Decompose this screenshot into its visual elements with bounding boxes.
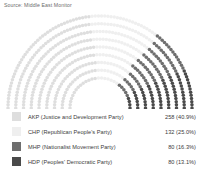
seat-dot bbox=[111, 47, 115, 51]
seat-dot bbox=[22, 100, 26, 104]
seat-dot bbox=[109, 15, 113, 19]
seat-dot bbox=[92, 46, 96, 50]
seat-dot bbox=[103, 14, 107, 17]
seat-dot bbox=[105, 53, 109, 57]
seat-dot bbox=[167, 100, 171, 104]
seat-dot bbox=[155, 84, 159, 88]
seat-dot bbox=[106, 15, 110, 19]
seat-dot bbox=[178, 78, 182, 82]
seat-dot bbox=[190, 103, 194, 107]
seat-dot bbox=[93, 22, 97, 26]
seat-dot bbox=[105, 30, 109, 34]
seat-dot bbox=[125, 94, 129, 98]
seat-dot bbox=[37, 103, 41, 107]
seat-dot bbox=[128, 103, 132, 107]
seat-dot bbox=[112, 15, 116, 19]
seat-dot bbox=[69, 19, 73, 23]
seat-dot bbox=[73, 42, 77, 46]
seat-dot bbox=[87, 62, 91, 66]
legend-swatch-hdp bbox=[12, 157, 21, 166]
seat-dot bbox=[76, 41, 80, 45]
seat-dot bbox=[97, 69, 101, 73]
seat-dot bbox=[106, 22, 110, 26]
seat-dot bbox=[106, 77, 110, 81]
seat-dot-group bbox=[6, 14, 194, 109]
seat-dot bbox=[47, 94, 51, 98]
parliament-seat-chart bbox=[0, 11, 200, 109]
seat-dot bbox=[10, 81, 14, 85]
seat-dot bbox=[16, 90, 20, 94]
legend-row-hdp[interactable]: HDP (Peoples' Democratic Party) 80 (13.1… bbox=[0, 154, 200, 169]
seat-dot bbox=[31, 94, 35, 98]
seat-dot bbox=[33, 84, 37, 88]
seat-dot bbox=[17, 84, 21, 88]
seat-dot bbox=[111, 39, 115, 43]
seat-dot bbox=[182, 100, 186, 104]
seat-dot bbox=[162, 81, 166, 85]
seat-dot bbox=[105, 38, 109, 42]
seat-dot bbox=[90, 69, 94, 73]
seat-dot bbox=[98, 53, 102, 57]
seat-dot bbox=[84, 15, 88, 19]
seat-dot bbox=[111, 55, 115, 59]
seat-dot bbox=[92, 30, 96, 34]
seat-dot bbox=[150, 94, 154, 98]
seat-dot bbox=[6, 100, 10, 104]
legend-value-mhp: 80 (16.3%) bbox=[168, 144, 196, 150]
seat-dot bbox=[172, 84, 176, 88]
seat-dot bbox=[23, 91, 27, 95]
seat-dot bbox=[45, 100, 49, 104]
seat-dot bbox=[116, 16, 120, 20]
seat-dot bbox=[181, 90, 185, 94]
legend-label-chp: CHP (Republican People's Party) bbox=[28, 129, 165, 135]
seat-dot bbox=[75, 17, 79, 21]
seat-dot bbox=[90, 61, 94, 65]
seat-dot bbox=[55, 94, 59, 98]
legend-value-hdp: 80 (13.1%) bbox=[168, 159, 196, 165]
seat-dot bbox=[15, 94, 19, 98]
seat-dot bbox=[16, 87, 20, 91]
seat-dot bbox=[171, 81, 175, 85]
seat-dot bbox=[101, 30, 105, 34]
seat-dot bbox=[157, 90, 161, 94]
legend-row-mhp[interactable]: MHP (Nationalist Movement Party) 80 (16.… bbox=[0, 139, 200, 154]
seat-dot bbox=[189, 90, 193, 94]
seat-dot bbox=[79, 56, 83, 60]
seat-dot bbox=[81, 64, 85, 68]
legend-row-akp[interactable]: AKP (Justice and Development Party) 258 … bbox=[0, 109, 200, 124]
seat-dot bbox=[83, 31, 87, 34]
seat-dot bbox=[174, 100, 178, 104]
seat-dot bbox=[76, 49, 80, 53]
seat-dot bbox=[66, 20, 70, 24]
seat-dot bbox=[116, 24, 120, 28]
seat-dot bbox=[46, 97, 50, 101]
seat-dot bbox=[97, 14, 101, 18]
seat-dot bbox=[72, 18, 76, 22]
seat-dot bbox=[32, 87, 36, 91]
seat-dot bbox=[72, 26, 76, 30]
seat-dot bbox=[120, 41, 124, 45]
seat-dot bbox=[98, 45, 102, 49]
legend-row-chp[interactable]: CHP (Republican People's Party) 132 (25.… bbox=[0, 124, 200, 139]
legend-swatch-akp bbox=[12, 112, 21, 121]
seat-dot bbox=[93, 69, 97, 73]
seat-dot bbox=[172, 87, 176, 91]
seat-dot bbox=[78, 17, 82, 21]
seat-dot bbox=[25, 84, 29, 88]
seat-dot bbox=[90, 77, 94, 81]
seat-dot bbox=[106, 69, 110, 73]
seat-dot bbox=[14, 103, 18, 107]
seat-dot bbox=[179, 81, 183, 85]
seat-dot bbox=[23, 94, 27, 98]
seat-dot bbox=[135, 100, 139, 104]
seat-dot bbox=[188, 84, 192, 88]
seat-dot bbox=[165, 91, 169, 95]
seat-dot bbox=[68, 103, 72, 107]
legend-swatch-chp bbox=[12, 127, 21, 136]
seat-dot bbox=[151, 100, 155, 104]
seat-dot bbox=[114, 47, 118, 51]
seat-dot bbox=[108, 54, 112, 58]
seat-dot bbox=[89, 38, 93, 42]
seat-dot bbox=[103, 69, 107, 73]
seat-dot bbox=[95, 38, 99, 42]
